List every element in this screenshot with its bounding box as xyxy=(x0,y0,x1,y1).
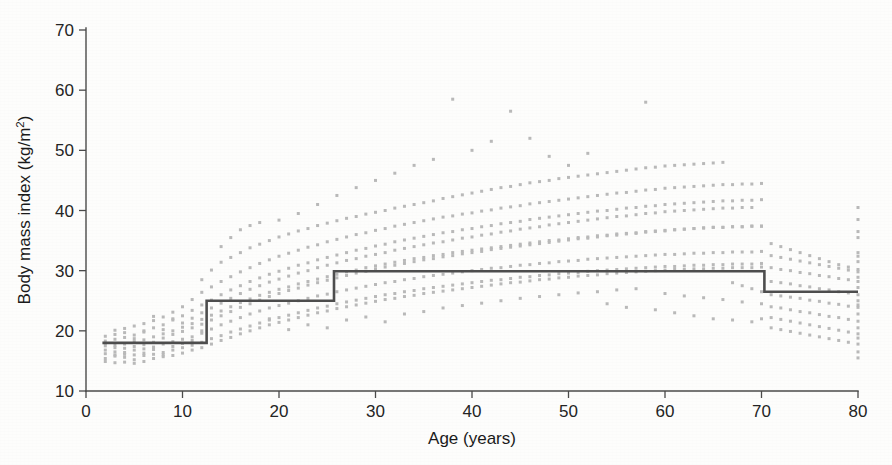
scatter-point xyxy=(210,343,213,346)
scatter-point xyxy=(220,323,223,326)
scatter-point xyxy=(673,164,676,167)
scatter-point xyxy=(268,317,271,320)
scatter-point xyxy=(297,316,300,319)
scatter-point xyxy=(123,336,126,339)
scatter-point xyxy=(393,249,396,252)
x-tick-label: 20 xyxy=(270,402,289,421)
scatter-point xyxy=(480,225,483,228)
scatter-point xyxy=(664,229,667,232)
scatter-point xyxy=(808,254,811,257)
scatter-point xyxy=(432,158,435,161)
scatter-point xyxy=(268,258,271,261)
scatter-point xyxy=(538,225,541,228)
scatter-point xyxy=(113,338,116,341)
scatter-point xyxy=(413,277,416,280)
scatter-point xyxy=(731,183,734,186)
scatter-point xyxy=(654,266,657,269)
scatter-point xyxy=(442,216,445,219)
scatter-point xyxy=(239,328,242,331)
scatter-point xyxy=(606,209,609,212)
scatter-point xyxy=(258,221,261,224)
scatter-point xyxy=(625,306,628,309)
scatter-point xyxy=(606,257,609,260)
scatter-point xyxy=(306,269,309,272)
scatter-point xyxy=(152,315,155,318)
scatter-point xyxy=(490,140,493,143)
scatter-point xyxy=(557,272,560,275)
scatter-point xyxy=(615,234,618,237)
scatter-point xyxy=(335,194,338,197)
scatter-point xyxy=(606,234,609,237)
scatter-point xyxy=(413,221,416,224)
scatter-point xyxy=(191,309,194,312)
scatter-point xyxy=(133,345,136,348)
scatter-point xyxy=(133,349,136,352)
scatter-point xyxy=(403,290,406,293)
scatter-point xyxy=(191,322,194,325)
scatter-point xyxy=(220,302,223,305)
scatter-point xyxy=(364,266,367,269)
scatter-point xyxy=(287,252,290,255)
scatter-point xyxy=(471,192,474,195)
scatter-point xyxy=(664,203,667,206)
scatter-point xyxy=(538,242,541,245)
scatter-point xyxy=(306,323,309,326)
scatter-point xyxy=(596,235,599,238)
scatter-point xyxy=(528,202,531,205)
scatter-point xyxy=(364,297,367,300)
scatter-point xyxy=(760,250,763,253)
scatter-point xyxy=(760,266,763,269)
scatter-point xyxy=(200,318,203,321)
scatter-point xyxy=(480,234,483,237)
scatter-point xyxy=(200,311,203,314)
scatter-point xyxy=(152,353,155,356)
scatter-point xyxy=(374,267,377,270)
scatter-point xyxy=(374,244,377,247)
scatter-point xyxy=(847,341,850,344)
scatter-point xyxy=(857,312,860,315)
scatter-point xyxy=(422,292,425,295)
scatter-point xyxy=(480,302,483,305)
scatter-point xyxy=(548,273,551,276)
scatter-point xyxy=(731,251,734,254)
scatter-point xyxy=(712,161,715,164)
scatter-point xyxy=(692,227,695,230)
scatter-point xyxy=(741,300,744,303)
scatter-point xyxy=(692,252,695,255)
scatter-point xyxy=(162,353,165,356)
scatter-point xyxy=(113,333,116,336)
scatter-point xyxy=(673,311,676,314)
scatter-point xyxy=(779,268,782,271)
scatter-point xyxy=(191,317,194,320)
scatter-point xyxy=(548,223,551,226)
scatter-point xyxy=(210,328,213,331)
scatter-point xyxy=(538,295,541,298)
scatter-point xyxy=(162,332,165,335)
scatter-point xyxy=(538,262,541,265)
scatter-point xyxy=(220,245,223,248)
scatter-point xyxy=(818,313,821,316)
scatter-point xyxy=(528,275,531,278)
scatter-point xyxy=(741,225,744,228)
scatter-point xyxy=(499,222,502,225)
scatter-point xyxy=(335,307,338,310)
scatter-point xyxy=(432,257,435,260)
scatter-point xyxy=(249,266,252,269)
scatter-point xyxy=(596,257,599,260)
scatter-point xyxy=(432,254,435,257)
scatter-point xyxy=(731,207,734,210)
scatter-point xyxy=(142,352,145,355)
scatter-point xyxy=(635,287,638,290)
scatter-point xyxy=(393,292,396,295)
scatter-point xyxy=(162,323,165,326)
scatter-point xyxy=(287,319,290,322)
scatter-point xyxy=(258,294,261,297)
scatter-point xyxy=(664,210,667,213)
scatter-point xyxy=(789,320,792,323)
scatter-point xyxy=(422,287,425,290)
scatter-point xyxy=(297,212,300,215)
scatter-point xyxy=(683,264,686,267)
scatter-point xyxy=(702,184,705,187)
scatter-point xyxy=(384,320,387,323)
scatter-point xyxy=(239,316,242,319)
